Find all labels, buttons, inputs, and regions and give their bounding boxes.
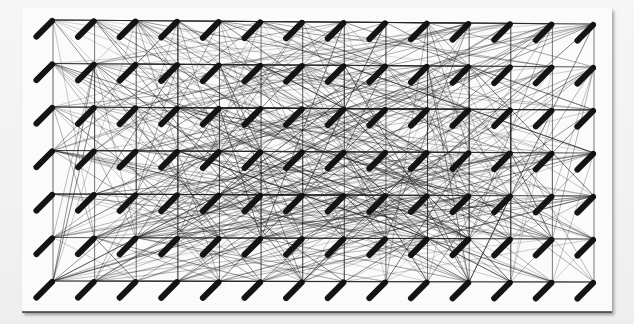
pin-0-6 <box>301 20 305 24</box>
pin-2-5 <box>259 106 263 110</box>
spool-5-9 <box>411 240 427 256</box>
pin-4-2 <box>134 193 138 197</box>
pin-3-7 <box>343 150 347 154</box>
spool-6-3 <box>161 282 177 298</box>
string-art-canvas <box>0 0 634 324</box>
pin-6-8 <box>384 280 388 284</box>
spool-6-9 <box>411 283 427 299</box>
pin-1-9 <box>426 64 430 68</box>
spool-2-13 <box>577 111 593 127</box>
pin-6-0 <box>51 279 55 283</box>
pin-4-0 <box>51 192 55 196</box>
pin-1-11 <box>509 65 513 69</box>
pin-4-11 <box>509 194 513 198</box>
pin-5-2 <box>134 236 138 240</box>
pin-6-1 <box>93 279 97 283</box>
pin-1-1 <box>93 62 97 66</box>
spool-5-10 <box>453 240 469 256</box>
pin-0-3 <box>176 19 180 23</box>
pin-1-13 <box>592 65 596 69</box>
pin-1-2 <box>134 62 138 66</box>
pin-6-2 <box>134 279 138 283</box>
pin-1-12 <box>551 65 555 69</box>
pin-3-12 <box>551 151 555 155</box>
pin-0-4 <box>218 19 222 23</box>
pin-1-0 <box>51 62 55 66</box>
pin-0-11 <box>509 22 513 26</box>
pin-3-6 <box>301 150 305 154</box>
pin-5-8 <box>384 237 388 241</box>
spool-3-0 <box>36 152 52 168</box>
pin-0-2 <box>134 19 138 23</box>
spool-0-0 <box>36 21 52 37</box>
pin-1-3 <box>176 63 180 67</box>
pin-3-10 <box>467 151 471 155</box>
spool-1-0 <box>36 65 52 81</box>
spool-0-3 <box>161 22 177 38</box>
pin-3-9 <box>426 150 430 154</box>
pin-5-12 <box>551 237 555 241</box>
pin-3-5 <box>259 150 263 154</box>
pin-3-3 <box>176 149 180 153</box>
pin-4-5 <box>259 193 263 197</box>
pin-4-12 <box>551 194 555 198</box>
spool-6-8 <box>369 283 385 299</box>
spool-1-2 <box>120 65 136 81</box>
pin-3-0 <box>51 149 55 153</box>
spool-4-13 <box>577 197 593 213</box>
pin-5-7 <box>343 237 347 241</box>
pin-2-2 <box>134 106 138 110</box>
pin-3-4 <box>218 149 222 153</box>
pin-5-9 <box>426 237 430 241</box>
pin-1-6 <box>301 63 305 67</box>
pin-6-9 <box>426 280 430 284</box>
pin-5-3 <box>176 236 180 240</box>
pin-4-1 <box>93 192 97 196</box>
pin-4-3 <box>176 193 180 197</box>
spool-6-12 <box>536 283 552 299</box>
pin-4-6 <box>301 193 305 197</box>
pin-1-8 <box>384 64 388 68</box>
pin-6-5 <box>259 280 263 284</box>
pin-3-8 <box>384 150 388 154</box>
pin-5-1 <box>93 236 97 240</box>
spool-5-12 <box>536 240 552 256</box>
pin-1-10 <box>467 64 471 68</box>
spool-0-4 <box>203 22 219 38</box>
pin-1-5 <box>259 63 263 67</box>
pin-3-2 <box>134 149 138 153</box>
pin-6-3 <box>176 279 180 283</box>
spool-5-11 <box>494 240 510 256</box>
spool-6-10 <box>453 283 469 299</box>
spool-6-5 <box>245 282 261 298</box>
pin-6-10 <box>467 280 471 284</box>
pin-5-0 <box>51 236 55 240</box>
pin-2-8 <box>384 107 388 111</box>
pin-6-13 <box>592 280 596 284</box>
pin-0-13 <box>592 22 596 26</box>
spool-4-0 <box>36 195 52 211</box>
pin-4-9 <box>426 194 430 198</box>
pin-3-11 <box>509 151 513 155</box>
spool-5-2 <box>120 239 136 255</box>
pin-2-12 <box>551 108 555 112</box>
pin-0-0 <box>51 18 55 22</box>
pin-2-7 <box>343 107 347 111</box>
spool-0-8 <box>369 23 385 39</box>
spool-6-1 <box>78 282 94 298</box>
pin-2-3 <box>176 106 180 110</box>
spool-5-13 <box>577 240 593 256</box>
spool-6-11 <box>494 283 510 299</box>
pin-2-0 <box>51 105 55 109</box>
pin-4-4 <box>218 193 222 197</box>
spool-1-4 <box>203 66 219 82</box>
pin-1-4 <box>218 63 222 67</box>
pin-5-10 <box>467 237 471 241</box>
pin-2-6 <box>301 107 305 111</box>
pin-0-7 <box>343 20 347 24</box>
pin-2-11 <box>509 108 513 112</box>
spool-5-0 <box>36 239 52 255</box>
pin-4-13 <box>592 194 596 198</box>
pin-5-4 <box>218 236 222 240</box>
pin-0-8 <box>384 21 388 25</box>
